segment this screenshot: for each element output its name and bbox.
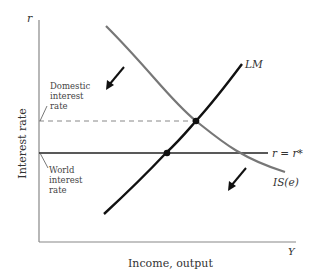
world-rate-curve-label: r = r* (272, 147, 303, 159)
x-axis-label: Income, output (128, 257, 213, 270)
y-axis-symbol: r (27, 12, 32, 25)
world-rate-annotation: World interest rate (49, 165, 83, 195)
shift-arrow-lower-icon (228, 168, 246, 191)
domestic-equilibrium-point (193, 118, 200, 125)
is-curve-label: IS(e) (273, 176, 299, 188)
is-lm-diagram (0, 0, 321, 270)
world-rate-leader (40, 153, 48, 168)
lm-curve-label: LM (245, 58, 263, 70)
is-curve (106, 26, 285, 172)
x-axis-symbol: Y (288, 246, 295, 257)
domestic-rate-leader (40, 106, 47, 121)
lm-curve (104, 64, 242, 214)
y-axis-label: Interest rate (16, 104, 29, 184)
shift-arrow-upper-icon (106, 67, 124, 90)
domestic-rate-annotation: Domestic interest rate (50, 81, 90, 111)
world-equilibrium-point (164, 150, 171, 157)
